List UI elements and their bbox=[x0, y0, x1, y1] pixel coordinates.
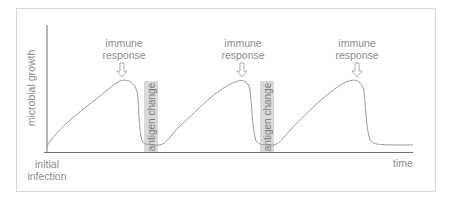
origin-label-line2: infection bbox=[22, 170, 72, 182]
arrow-down-icon bbox=[117, 63, 127, 77]
growth-curve bbox=[47, 80, 413, 146]
immune-response-line2: response bbox=[94, 49, 154, 61]
immune-response-line1: immune bbox=[94, 37, 154, 49]
immune-response-label-2: immune response bbox=[213, 37, 273, 61]
x-axis-label: time bbox=[388, 157, 418, 169]
immune-response-line1: immune bbox=[327, 37, 387, 49]
immune-response-line1: immune bbox=[213, 37, 273, 49]
arrow-down-icon bbox=[237, 63, 247, 77]
origin-label-line1: initial bbox=[22, 158, 72, 170]
immune-response-line2: response bbox=[213, 49, 273, 61]
y-axis-label: microbial growth bbox=[25, 50, 37, 126]
immune-response-line2: response bbox=[327, 49, 387, 61]
origin-label: initial infection bbox=[22, 158, 72, 182]
arrow-down-icon bbox=[352, 63, 362, 77]
immune-response-label-1: immune response bbox=[94, 37, 154, 61]
immune-response-label-3: immune response bbox=[327, 37, 387, 61]
